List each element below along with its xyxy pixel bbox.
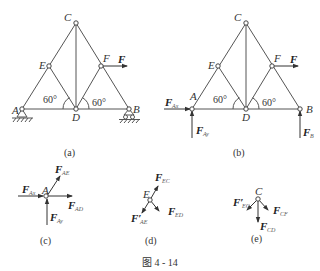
node-label: C [255,185,263,197]
angle-label: 60° [43,94,57,105]
panel-d-node-e: E F EC F′ AE F ED (d) [130,171,184,247]
node-label-f: F [273,52,281,64]
panel-label-d: (d) [145,235,157,247]
subscript: Ay [202,131,209,137]
subscript: ED [174,212,184,218]
panel-b-free-body: A B C D E F 60° 60° F F Ax F Ay F B (b) [164,11,314,159]
node-label-b: B [133,103,140,115]
node-label-a: A [189,90,197,102]
subscript: EC [241,203,251,209]
panel-label-a: (a) [64,147,75,159]
panel-label-b: (b) [233,147,245,159]
panel-e-node-c: C F′ EC F CF F CD (e) [232,185,288,245]
truss-figure: A B C D E F 60° 60° F (a) A B [0,0,320,271]
panel-c-node-a: A F AE F Ax F AD F Ay (c) [18,163,84,247]
node-label-a: A [11,104,19,116]
node-label-f: F [102,52,110,64]
angle-label: 60° [92,97,106,108]
subscript: Ax [171,103,179,109]
subscript: Ay [56,218,63,224]
subscript: AD [74,206,84,212]
node-label-d: D [71,111,80,123]
subscript: EC [161,178,171,184]
panel-label-e: (e) [251,233,262,245]
node-label-d: D [241,111,250,123]
panel-label-c: (c) [40,235,51,247]
panel-a-truss: A B C D E F 60° 60° F (a) [11,11,140,159]
load-label: F [289,53,298,65]
subscript: B [310,133,314,139]
load-label: F [117,53,126,65]
subscript: CF [280,211,288,217]
node-label-c: C [64,11,72,23]
subscript: CD [267,227,276,233]
subscript: Ax [28,190,36,196]
node-label: E [142,188,150,200]
angle-label: 60° [262,97,276,108]
node-label-b: B [306,103,313,115]
node-label-e: E [207,59,215,71]
subscript: AE [61,170,70,176]
angle-label: 60° [213,94,227,105]
figure-caption: 图 4 - 14 [142,257,178,268]
subscript: AE [139,219,148,225]
node-label-c: C [234,11,242,23]
node-label: A [41,184,49,196]
node-label-e: E [38,59,46,71]
